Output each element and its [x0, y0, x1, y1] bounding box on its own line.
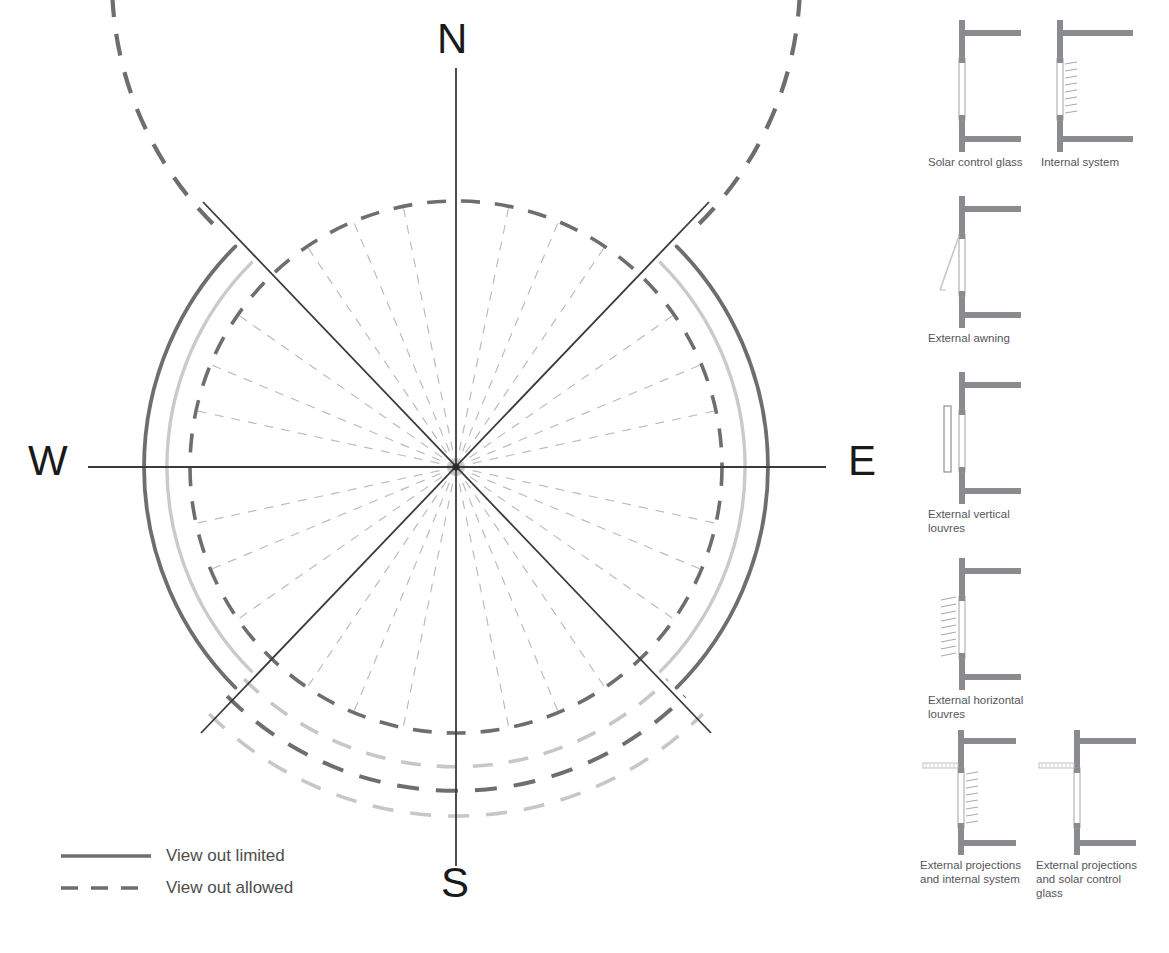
cardinal-label-east: E [848, 440, 876, 482]
detail-external-vertical-louvres: External vertical louvres [928, 372, 1036, 535]
detail-drawing-external-horizontal-louvres [928, 558, 1036, 690]
compass-center-point [452, 463, 459, 470]
detail-drawing-external-projections-and-solar-control-glass [1036, 730, 1156, 855]
legend-swatch-dashed [60, 881, 152, 895]
detail-sections: Solar control glass [920, 0, 1169, 953]
detail-caption-external-horizontal-louvres: External horizontal louvres [928, 693, 1036, 721]
detail-drawing-internal-system [1041, 20, 1156, 152]
legend-swatch-solid [60, 849, 152, 863]
detail-caption-external-awning: External awning [928, 331, 1036, 345]
legend-label-view-out-allowed: View out allowed [166, 878, 293, 898]
cardinal-label-south: S [441, 862, 469, 904]
detail-drawing-external-projections-and-internal-system [920, 730, 1032, 855]
detail-internal-system: Internal system [1041, 20, 1156, 169]
legend: View out limited View out allowed [60, 840, 293, 904]
diagram-canvas: N S W E View out limited View out allowe… [0, 0, 1169, 953]
detail-external-projections-and-internal-system: External projections and internal system [920, 730, 1032, 886]
detail-drawing-external-awning [928, 196, 1036, 328]
detail-caption-external-projections-and-solar-control-glass: External projections and solar control g… [1036, 858, 1144, 900]
compass-diagram [0, 0, 880, 953]
projection-overhang [1039, 763, 1074, 768]
detail-drawing-external-vertical-louvres [928, 372, 1036, 504]
detail-caption-external-projections-and-internal-system: External projections and internal system [920, 858, 1028, 886]
legend-item-view-out-allowed: View out allowed [60, 872, 293, 904]
legend-item-view-out-limited: View out limited [60, 840, 293, 872]
detail-drawing-solar-control-glass [928, 20, 1036, 152]
cardinal-label-west: W [28, 440, 68, 482]
legend-label-view-out-limited: View out limited [166, 846, 285, 866]
detail-caption-external-vertical-louvres: External vertical louvres [928, 507, 1036, 535]
cardinal-label-north: N [437, 18, 467, 60]
detail-solar-control-glass: Solar control glass [928, 20, 1036, 169]
detail-external-projections-and-solar-control-glass: External projections and solar control g… [1036, 730, 1156, 900]
detail-external-awning: External awning [928, 196, 1036, 345]
projection-overhang [923, 763, 958, 768]
detail-caption-solar-control-glass: Solar control glass [928, 155, 1036, 169]
detail-caption-internal-system: Internal system [1041, 155, 1149, 169]
detail-external-horizontal-louvres: External horizontal louvres [928, 558, 1036, 721]
